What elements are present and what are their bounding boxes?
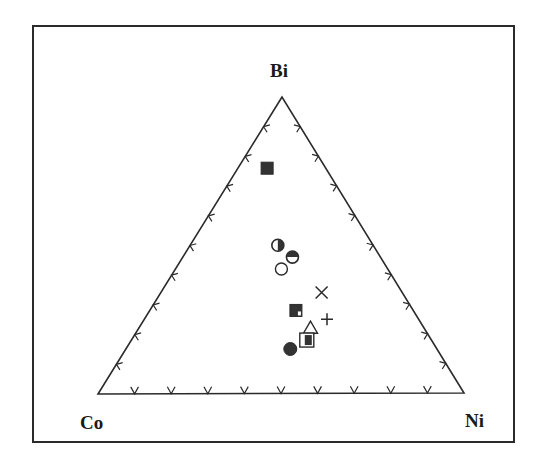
tick-mark-right [421,332,427,339]
tick-mark-left [116,363,122,370]
tick-mark-left [190,244,196,251]
tick-mark-left [264,125,270,132]
tick-mark-bottom [131,387,139,394]
data-point-cross-x [316,287,328,299]
vertex-label-ni: Ni [465,410,484,432]
tick-mark-left [135,333,141,340]
tick-mark-right [349,214,355,221]
symbol-inner-fill [305,335,312,345]
tick-mark-bottom [241,387,249,394]
tick-mark-right [367,243,373,250]
vertex-label-co: Co [80,412,103,434]
tick-mark-bottom [204,387,212,394]
data-point-filled-square [261,162,273,174]
data-point-plus [321,313,333,325]
tick-mark-left [172,273,178,280]
tick-mark-left [153,303,159,310]
tick-mark-right [385,273,391,280]
tick-mark-bottom [167,387,175,394]
tick-mark-bottom [314,386,322,393]
tick-mark-bottom [424,386,432,393]
data-point-open-triangle [304,321,318,333]
tick-mark-right [330,184,336,191]
symbol-notch [298,311,301,315]
tick-mark-bottom [277,387,285,394]
tick-mark-left [208,214,214,221]
tick-mark-bottom [350,386,358,393]
tick-mark-right [403,302,409,309]
tick-mark-left [245,155,251,162]
data-point-open-circle [275,263,287,275]
tick-mark-right [312,154,318,161]
vertex-label-bi: Bi [270,60,288,82]
data-point-filled-circle [284,343,297,356]
tick-mark-bottom [387,386,395,393]
tick-mark-right [440,362,446,369]
tick-mark-right [294,125,300,132]
tick-mark-left [227,184,233,191]
